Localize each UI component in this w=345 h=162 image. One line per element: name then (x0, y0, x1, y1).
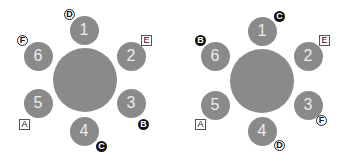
round-table-right (230, 49, 294, 113)
badge-right-C: C (274, 11, 285, 22)
badge-right-D: D (274, 140, 285, 151)
badge-right-F: F (316, 115, 327, 126)
seat-left-5: 5 (24, 89, 53, 118)
badge-left-A: A (19, 119, 30, 130)
badge-right-B: B (195, 35, 206, 46)
badge-left-F: F (17, 35, 28, 46)
seat-right-5: 5 (201, 91, 230, 120)
seat-left-3: 3 (117, 89, 146, 118)
badge-left-E: E (141, 35, 152, 46)
badge-left-C: C (96, 141, 107, 152)
seat-right-1: 1 (248, 17, 277, 46)
seat-right-6: 6 (201, 42, 230, 71)
badge-left-D: D (64, 9, 75, 20)
seat-left-6: 6 (24, 42, 53, 71)
badge-right-A: A (195, 119, 206, 130)
badge-right-E: E (319, 35, 330, 46)
round-table-left (53, 48, 117, 112)
seat-left-4: 4 (70, 117, 99, 146)
badge-left-B: B (138, 119, 149, 130)
seat-right-4: 4 (248, 117, 277, 146)
seat-left-1: 1 (70, 16, 99, 45)
